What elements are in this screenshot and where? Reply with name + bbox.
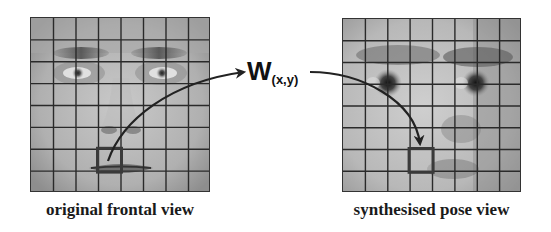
synthesised-face-illustration bbox=[343, 19, 521, 192]
warp-label-main: W bbox=[247, 56, 272, 86]
original-frontal-face-image bbox=[30, 17, 210, 192]
highlighted-target-cell bbox=[409, 149, 433, 173]
synthesised-pose-face-image bbox=[342, 18, 521, 192]
left-panel-caption: original frontal view bbox=[30, 200, 210, 220]
right-panel-caption: synthesised pose view bbox=[335, 200, 528, 220]
warp-function-label: W(x,y) bbox=[247, 56, 298, 87]
frontal-face-illustration bbox=[31, 18, 210, 192]
warp-label-subscript: (x,y) bbox=[272, 72, 299, 87]
